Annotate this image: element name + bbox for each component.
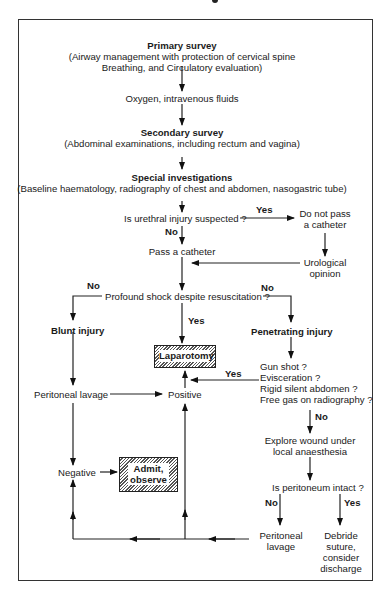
explore-wound-line1: Explore wound under — [265, 435, 356, 446]
yes-label-shock: Yes — [188, 315, 205, 326]
penetrating-injury: Penetrating injury — [251, 326, 333, 337]
laparotomy-box: Laparotomy — [154, 345, 216, 368]
primary-survey-title: Primary survey — [147, 40, 216, 51]
oxygen-step: Oxygen, intravenous fluids — [125, 93, 238, 104]
pass-catheter: Pass a catheter — [149, 246, 216, 257]
peritoneal-lavage-penetrating-line2: lavage — [267, 541, 295, 552]
no-label-urethral: No — [165, 226, 178, 237]
yes-label-peritoneum: Yes — [344, 497, 361, 508]
blunt-injury: Blunt injury — [51, 325, 104, 336]
urethral-question: Is urethral injury suspected ? — [124, 213, 247, 224]
question-free-gas: Free gas on radiography ? — [260, 394, 373, 405]
no-label-peritoneum: No — [265, 497, 278, 508]
primary-survey-line2: Breathing, and Circulatory evaluation) — [102, 62, 263, 73]
secondary-survey-detail: (Abdominal examinations, including rectu… — [64, 138, 300, 149]
special-investigations-detail: (Baseline haematology, radiography of ch… — [17, 183, 346, 194]
no-label-shock-right: No — [261, 282, 274, 293]
debride-line3: consider — [323, 552, 359, 563]
explore-wound-line2: local anaesthesia — [273, 446, 347, 457]
positive-result: Positive — [168, 389, 202, 400]
yes-label-penetrating: Yes — [225, 368, 242, 379]
peritoneal-lavage-penetrating-line1: Peritoneal — [259, 530, 302, 541]
question-evisceration: Evisceration ? — [260, 372, 320, 383]
laparotomy-label: Laparotomy — [159, 350, 210, 362]
debride-line4: discharge — [320, 563, 362, 574]
shock-question: Profound shock despite resuscitation ? — [105, 291, 270, 302]
yes-label-urethral: Yes — [256, 204, 273, 215]
admit-line: Admit, — [128, 463, 169, 474]
urological-opinion-line2: opinion — [310, 268, 341, 279]
do-not-pass-line2: a catheter — [304, 219, 347, 230]
urological-opinion-line1: Urological — [304, 257, 347, 268]
secondary-survey-title: Secondary survey — [141, 127, 224, 138]
debride-line1: Debride — [324, 530, 358, 541]
observe-line: observe — [128, 474, 169, 485]
negative-result: Negative — [58, 467, 96, 478]
peritoneal-lavage-blunt: Peritoneal lavage — [34, 389, 108, 400]
primary-survey-line1: (Airway management with protection of ce… — [69, 51, 296, 62]
debride-line2: suture, — [326, 541, 355, 552]
question-rigid-abdomen: Rigid silent abdomen ? — [260, 383, 358, 394]
admit-observe-label: Admit, observe — [128, 463, 169, 485]
admit-observe-box: Admit, observe — [119, 457, 178, 492]
no-label-penetrating: No — [315, 411, 328, 422]
do-not-pass-line1: Do not pass — [299, 208, 350, 219]
no-label-shock-left: No — [87, 280, 100, 291]
question-gun-shot: Gun shot ? — [260, 361, 307, 372]
peritoneum-question: Is peritoneum intact ? — [272, 482, 364, 493]
special-investigations-title: Special investigations — [132, 172, 233, 183]
